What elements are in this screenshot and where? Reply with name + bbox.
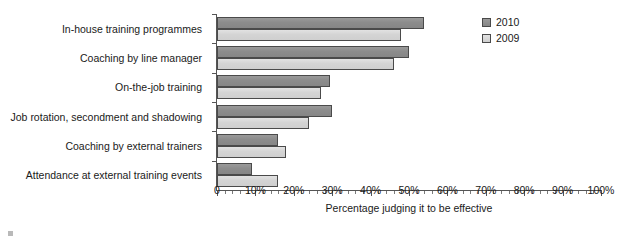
plot-area bbox=[217, 14, 601, 190]
x-tick-label-50: 50% bbox=[398, 184, 419, 196]
legend-label-2009: 2009 bbox=[496, 32, 519, 44]
x-tick-minor bbox=[578, 191, 579, 194]
x-tick-minor bbox=[463, 191, 464, 194]
category-label-1: Coaching by line manager bbox=[2, 52, 202, 64]
x-tick-label-40: 40% bbox=[360, 184, 381, 196]
x-tick-minor bbox=[348, 191, 349, 194]
x-tick-minor bbox=[540, 191, 541, 194]
bar-2010-5 bbox=[217, 163, 252, 175]
bar-2010-3 bbox=[217, 105, 332, 117]
bar-2009-3 bbox=[217, 117, 309, 129]
x-tick-minor bbox=[394, 191, 395, 194]
x-tick-minor bbox=[509, 191, 510, 194]
y-tick-4 bbox=[212, 131, 217, 132]
category-label-5: Attendance at external training events bbox=[2, 169, 202, 181]
x-tick-minor bbox=[355, 191, 356, 194]
bar-chart: In-house training programmesCoaching by … bbox=[0, 0, 617, 239]
bar-2010-4 bbox=[217, 134, 278, 146]
x-tick-minor bbox=[225, 191, 226, 194]
x-tick-minor bbox=[586, 191, 587, 194]
y-tick-2 bbox=[212, 73, 217, 74]
x-tick-label-30: 30% bbox=[322, 184, 343, 196]
legend-item-2009: 2009 bbox=[482, 31, 519, 45]
x-tick-label-60: 60% bbox=[437, 184, 458, 196]
x-tick-minor bbox=[278, 191, 279, 194]
y-tick-3 bbox=[212, 102, 217, 103]
category-label-4: Coaching by external trainers bbox=[2, 140, 202, 152]
scan-artifact-mark bbox=[8, 231, 13, 236]
x-tick-minor bbox=[317, 191, 318, 194]
x-tick-label-70: 70% bbox=[475, 184, 496, 196]
x-tick-label-90: 90% bbox=[552, 184, 573, 196]
legend-item-2010: 2010 bbox=[482, 15, 519, 29]
x-tick-minor bbox=[547, 191, 548, 194]
legend-label-2010: 2010 bbox=[496, 16, 519, 28]
x-axis-title: Percentage judging it to be effective bbox=[217, 202, 601, 214]
y-tick-0 bbox=[212, 14, 217, 15]
legend-swatch-2009-icon bbox=[482, 34, 491, 43]
category-label-2: On-the-job training bbox=[2, 81, 202, 93]
bar-2010-1 bbox=[217, 46, 409, 58]
x-tick-minor bbox=[240, 191, 241, 194]
bar-2009-2 bbox=[217, 87, 321, 99]
bar-2010-2 bbox=[217, 75, 330, 87]
x-tick-label-80: 80% bbox=[514, 184, 535, 196]
bar-2010-0 bbox=[217, 17, 424, 29]
category-label-3: Job rotation, secondment and shadowing bbox=[2, 111, 202, 123]
x-tick-label-100: 100% bbox=[588, 184, 615, 196]
bar-2009-0 bbox=[217, 29, 401, 41]
x-tick-minor bbox=[424, 191, 425, 194]
bar-2009-4 bbox=[217, 146, 286, 158]
x-tick-label-10: 10% bbox=[245, 184, 266, 196]
x-tick-label-20: 20% bbox=[283, 184, 304, 196]
x-tick-minor bbox=[271, 191, 272, 194]
category-axis-labels: In-house training programmesCoaching by … bbox=[0, 14, 209, 190]
x-tick-minor bbox=[470, 191, 471, 194]
chart-legend: 2010 2009 bbox=[482, 15, 519, 47]
bar-2009-1 bbox=[217, 58, 394, 70]
x-tick-minor bbox=[501, 191, 502, 194]
x-tick-minor bbox=[432, 191, 433, 194]
y-tick-5 bbox=[212, 161, 217, 162]
y-tick-1 bbox=[212, 43, 217, 44]
x-tick-minor bbox=[309, 191, 310, 194]
x-tick-minor bbox=[232, 191, 233, 194]
x-tick-minor bbox=[386, 191, 387, 194]
legend-swatch-2010-icon bbox=[482, 18, 491, 27]
category-label-0: In-house training programmes bbox=[2, 23, 202, 35]
x-tick-label-0: 0 bbox=[214, 184, 220, 196]
